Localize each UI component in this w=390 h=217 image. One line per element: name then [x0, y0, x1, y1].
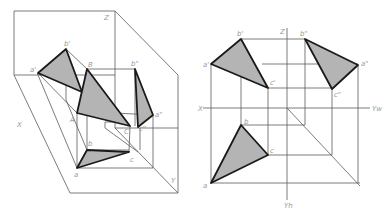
- orthographic-view: Z X Yw Yh a' b' c' b" a" c" b c a: [197, 28, 382, 210]
- axis-label-x: X: [16, 121, 22, 129]
- label-c-side: c": [334, 91, 341, 99]
- axonometric-view: Z X Y a' b' B b" a" A C c" b c a: [14, 11, 178, 193]
- label-C: C: [124, 128, 129, 136]
- label-a-side: a": [155, 111, 163, 119]
- label-c-side: c": [139, 125, 146, 133]
- label-b-front: b': [64, 40, 70, 48]
- label-b: b: [244, 118, 249, 126]
- label-c: c: [270, 147, 274, 155]
- triangle-spatial-ABC: [77, 69, 130, 126]
- triangle-side-projection: [135, 69, 153, 127]
- label-b-front: b': [237, 30, 243, 38]
- axis-label-yh: Yh: [284, 202, 293, 210]
- axis-label-yw: Yw: [372, 105, 382, 113]
- label-c: c: [130, 156, 134, 164]
- triangle-horizontal-projection: [77, 150, 129, 168]
- triangle-front-projection: [38, 49, 82, 92]
- projection-diagram: Z X Y a' b' B b" a" A C c" b c a: [0, 0, 390, 217]
- label-A: A: [69, 116, 75, 124]
- front-view-triangle: [211, 39, 268, 88]
- label-a: a: [74, 171, 78, 179]
- label-b-side: b": [131, 60, 139, 68]
- label-B: B: [88, 61, 93, 69]
- top-view-triangle: [211, 125, 268, 183]
- label-a-side: a": [361, 60, 369, 68]
- label-b: b: [88, 140, 93, 148]
- miter-line: [287, 108, 360, 186]
- axis-label-x: X: [197, 105, 203, 113]
- axis-label-z: Z: [279, 28, 285, 36]
- axis-label-y: Y: [171, 177, 176, 185]
- label-c-front: c': [270, 79, 276, 87]
- label-b-side: b": [300, 30, 308, 38]
- label-a-front: a': [203, 61, 209, 69]
- label-a: a: [203, 182, 207, 190]
- label-a-front: a': [30, 66, 36, 74]
- axis-label-z: Z: [103, 14, 109, 22]
